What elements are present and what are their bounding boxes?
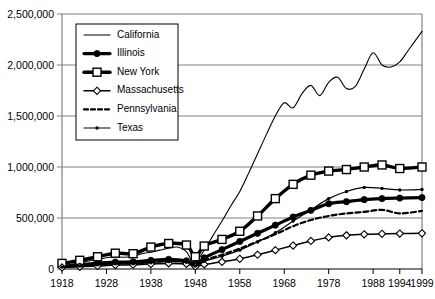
- data-point: [203, 260, 206, 263]
- data-point: [419, 195, 425, 201]
- data-point: [147, 243, 155, 251]
- x-tick-label: 1999: [410, 277, 434, 289]
- x-tick-label: 1994: [388, 277, 412, 289]
- data-point: [254, 230, 260, 236]
- data-point: [378, 161, 386, 169]
- data-point: [220, 255, 223, 258]
- data-point: [360, 163, 368, 171]
- data-point: [274, 231, 277, 234]
- data-point: [325, 167, 333, 175]
- data-point: [236, 227, 244, 235]
- data-point: [194, 264, 197, 267]
- data-point: [396, 165, 404, 173]
- data-point: [96, 263, 99, 266]
- data-point: [326, 201, 332, 207]
- data-point: [380, 187, 383, 190]
- data-point: [114, 262, 117, 265]
- data-point: [271, 195, 279, 203]
- data-point: [129, 250, 137, 258]
- legend-label: Texas: [117, 122, 143, 133]
- data-point: [111, 249, 119, 257]
- data-point: [165, 240, 173, 248]
- data-point: [191, 253, 199, 261]
- data-point: [379, 196, 385, 202]
- data-point: [363, 186, 366, 189]
- data-point: [361, 197, 367, 203]
- data-point: [95, 126, 98, 129]
- data-point: [307, 171, 315, 179]
- data-point: [167, 260, 170, 263]
- data-point: [291, 219, 294, 222]
- data-point: [238, 248, 241, 251]
- x-tick-label: 1928: [95, 277, 119, 289]
- data-point: [345, 190, 348, 193]
- y-tick-label: 2,000,000: [7, 59, 54, 71]
- data-point: [418, 163, 426, 171]
- data-point: [237, 238, 243, 244]
- x-tick-label: 1988: [361, 277, 385, 289]
- data-point: [254, 212, 262, 220]
- x-axis-ticks: 1918192819381948195819681978198819941999: [50, 269, 434, 289]
- legend-label: Pennsylvania: [117, 103, 177, 114]
- x-tick-label: 1968: [273, 277, 297, 289]
- data-point: [93, 68, 101, 76]
- legend-label: Illinois: [117, 47, 145, 58]
- legend-label: California: [117, 29, 160, 40]
- data-point: [256, 240, 259, 243]
- data-point: [94, 253, 102, 261]
- y-tick-label: 500,000: [16, 212, 54, 224]
- data-point: [343, 199, 349, 205]
- line-chart-svg: 0500,0001,000,0001,500,0002,000,0002,500…: [0, 0, 435, 299]
- data-point: [272, 222, 278, 228]
- data-point: [94, 51, 100, 57]
- data-point: [185, 261, 188, 264]
- data-point: [60, 265, 63, 268]
- data-point: [327, 197, 330, 200]
- x-tick-label: 1938: [139, 277, 163, 289]
- data-point: [131, 262, 134, 265]
- data-point: [289, 180, 297, 188]
- chart-legend: CaliforniaIllinoisNew YorkMassachusettsP…: [76, 24, 184, 140]
- legend-label: Massachusetts: [117, 84, 184, 95]
- data-point: [78, 264, 81, 267]
- data-point: [309, 208, 312, 211]
- x-tick-label: 1948: [184, 277, 208, 289]
- data-point: [218, 235, 226, 243]
- y-axis-ticks: 0500,0001,000,0001,500,0002,000,0002,500…: [7, 8, 62, 275]
- y-tick-label: 2,500,000: [7, 8, 54, 20]
- data-point: [398, 188, 401, 191]
- data-point: [182, 241, 190, 249]
- data-point: [420, 188, 423, 191]
- data-point: [342, 166, 350, 174]
- x-tick-label: 1918: [50, 277, 74, 289]
- data-point: [200, 242, 208, 250]
- data-point: [219, 247, 225, 253]
- x-tick-label: 1958: [228, 277, 252, 289]
- x-tick-label: 1978: [317, 277, 341, 289]
- y-tick-label: 1,500,000: [7, 110, 54, 122]
- legend-label: New York: [117, 66, 160, 77]
- data-point: [397, 195, 403, 201]
- data-point: [149, 261, 152, 264]
- y-tick-label: 0: [48, 263, 54, 275]
- y-tick-label: 1,000,000: [7, 161, 54, 173]
- chart-figure: 0500,0001,000,0001,500,0002,000,0002,500…: [0, 0, 435, 299]
